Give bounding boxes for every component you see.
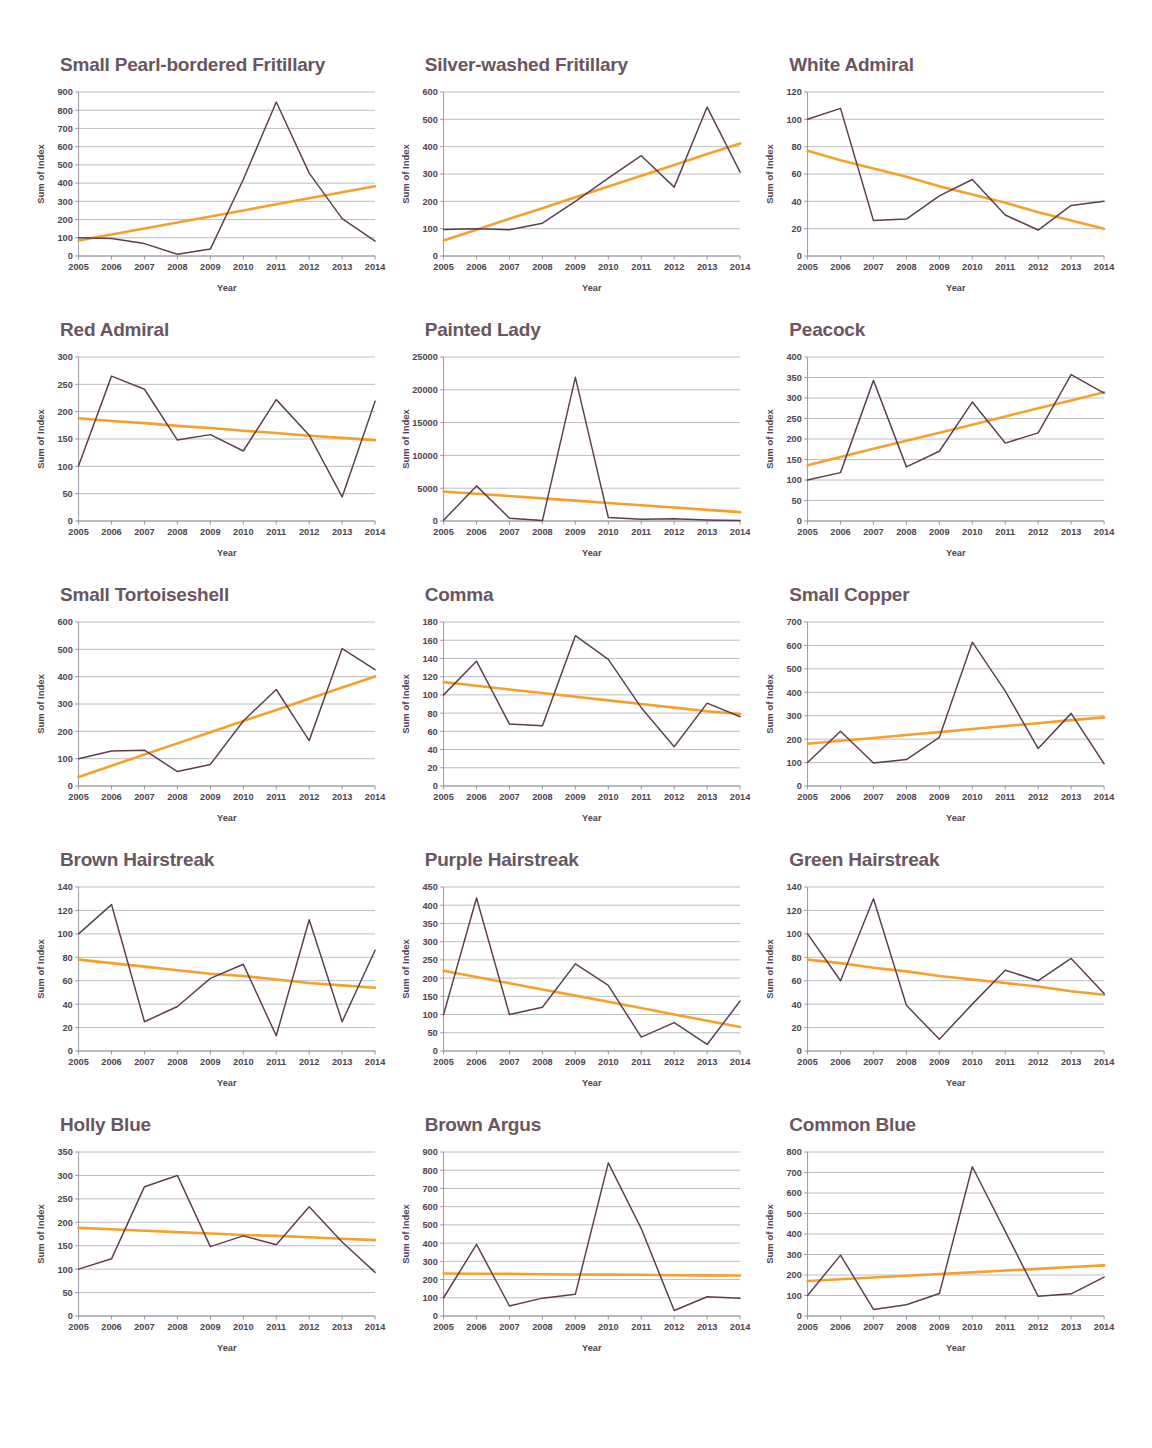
data-line — [79, 1175, 376, 1272]
trend-line — [808, 717, 1105, 743]
y-tick-label: 0 — [432, 1046, 437, 1056]
line-chart-svg: 0500010000150002000025000200520062007200… — [399, 347, 754, 561]
y-tick-label: 25000 — [412, 352, 438, 362]
y-tick-label: 400 — [787, 688, 802, 698]
x-tick-label: 2014 — [365, 1057, 386, 1067]
x-tick-label: 2007 — [499, 1057, 519, 1067]
x-tick-label: 2006 — [831, 262, 851, 272]
y-tick-label: 50 — [63, 1288, 73, 1298]
y-tick-label: 500 — [422, 115, 437, 125]
chart-title: Red Admiral — [60, 317, 389, 343]
y-tick-label: 600 — [57, 617, 72, 627]
x-axis-title: Year — [582, 283, 602, 293]
y-tick-label: 150 — [57, 434, 72, 444]
y-tick-label: 50 — [427, 1028, 437, 1038]
chart-title: Silver-washed Fritillary — [425, 52, 754, 78]
y-tick-label: 60 — [792, 169, 802, 179]
x-tick-label: 2008 — [897, 262, 917, 272]
chart-title: Small Tortoiseshell — [60, 582, 389, 608]
x-tick-label: 2008 — [897, 1057, 917, 1067]
y-tick-label: 600 — [422, 87, 437, 97]
chart-panel: White Admiral020406080100120200520062007… — [763, 52, 1118, 317]
x-tick-label: 2012 — [1028, 1057, 1048, 1067]
x-tick-label: 2014 — [730, 792, 751, 802]
x-axis-title: Year — [582, 548, 602, 558]
x-tick-label: 2008 — [532, 262, 552, 272]
x-tick-label: 2014 — [730, 1057, 751, 1067]
trend-line — [808, 392, 1105, 465]
data-line — [79, 905, 376, 1036]
x-tick-label: 2005 — [798, 527, 818, 537]
data-line — [443, 107, 740, 230]
y-tick-label: 60 — [63, 976, 73, 986]
line-chart-svg: 0100200300400500600700800900200520062007… — [399, 1142, 754, 1356]
plot-area: 0100200300400500600700800900200520062007… — [34, 82, 389, 296]
x-tick-label: 2012 — [1028, 527, 1048, 537]
x-tick-label: 2008 — [897, 527, 917, 537]
x-tick-label: 2008 — [167, 527, 187, 537]
x-tick-label: 2006 — [101, 262, 121, 272]
y-tick-label: 0 — [432, 1311, 437, 1321]
x-axis-title: Year — [946, 1343, 966, 1353]
plot-area: 0100200300400500600700200520062007200820… — [763, 612, 1118, 826]
data-line — [808, 108, 1105, 230]
data-line — [443, 1163, 740, 1311]
chart-title: Small Copper — [789, 582, 1118, 608]
plot-area: 0100200300400500600200520062007200820092… — [34, 612, 389, 826]
y-axis-title: Sum of Index — [765, 143, 775, 203]
x-tick-label: 2012 — [1028, 792, 1048, 802]
y-tick-label: 200 — [57, 1218, 72, 1228]
x-tick-label: 2007 — [864, 792, 884, 802]
x-tick-label: 2006 — [466, 262, 486, 272]
y-tick-label: 450 — [422, 882, 437, 892]
chart-panel: Peacock050100150200250300350400200520062… — [763, 317, 1118, 582]
plot-area: 0204060801001201402005200620072008200920… — [763, 877, 1118, 1091]
x-tick-label: 2013 — [1061, 792, 1081, 802]
plot-area: 0100200300400500600700800200520062007200… — [763, 1142, 1118, 1356]
chart-title: Green Hairstreak — [789, 847, 1118, 873]
x-tick-label: 2009 — [200, 792, 220, 802]
y-tick-label: 140 — [787, 882, 802, 892]
chart-panel: Small Tortoiseshell010020030040050060020… — [34, 582, 389, 847]
y-tick-label: 200 — [57, 727, 72, 737]
x-tick-label: 2013 — [697, 792, 717, 802]
x-tick-label: 2014 — [1094, 527, 1115, 537]
y-tick-label: 0 — [797, 251, 802, 261]
chart-panel: Holly Blue050100150200250300350200520062… — [34, 1112, 389, 1377]
y-tick-label: 0 — [797, 1046, 802, 1056]
x-tick-label: 2005 — [433, 262, 453, 272]
x-tick-label: 2005 — [433, 792, 453, 802]
x-axis-title: Year — [217, 283, 237, 293]
x-tick-label: 2014 — [730, 527, 751, 537]
x-tick-label: 2013 — [697, 1057, 717, 1067]
x-tick-label: 2012 — [664, 1322, 684, 1332]
y-tick-label: 40 — [792, 999, 802, 1009]
chart-panel: Small Pearl-bordered Fritillary010020030… — [34, 52, 389, 317]
y-tick-label: 300 — [57, 699, 72, 709]
x-tick-label: 2014 — [730, 1322, 751, 1332]
y-tick-label: 200 — [422, 1275, 437, 1285]
y-tick-label: 0 — [68, 1046, 73, 1056]
chart-panel: Small Copper0100200300400500600700200520… — [763, 582, 1118, 847]
x-tick-label: 2008 — [167, 262, 187, 272]
x-tick-label: 2010 — [598, 262, 618, 272]
chart-panel: Silver-washed Fritillary0100200300400500… — [399, 52, 754, 317]
y-tick-label: 0 — [68, 1311, 73, 1321]
plot-area: 0204060801001201402005200620072008200920… — [34, 877, 389, 1091]
chart-title: Peacock — [789, 317, 1118, 343]
y-tick-label: 100 — [787, 115, 802, 125]
data-line — [808, 642, 1105, 764]
y-tick-label: 200 — [422, 973, 437, 983]
data-line — [443, 377, 740, 520]
x-tick-label: 2011 — [266, 527, 286, 537]
x-tick-label: 2011 — [996, 1322, 1016, 1332]
x-tick-label: 2013 — [332, 1057, 352, 1067]
y-tick-label: 500 — [57, 645, 72, 655]
y-tick-label: 120 — [422, 672, 437, 682]
x-tick-label: 2007 — [499, 262, 519, 272]
chart-title: Painted Lady — [425, 317, 754, 343]
x-tick-label: 2013 — [1061, 1057, 1081, 1067]
y-tick-label: 800 — [57, 105, 72, 115]
y-tick-label: 100 — [787, 929, 802, 939]
x-tick-label: 2009 — [565, 527, 585, 537]
